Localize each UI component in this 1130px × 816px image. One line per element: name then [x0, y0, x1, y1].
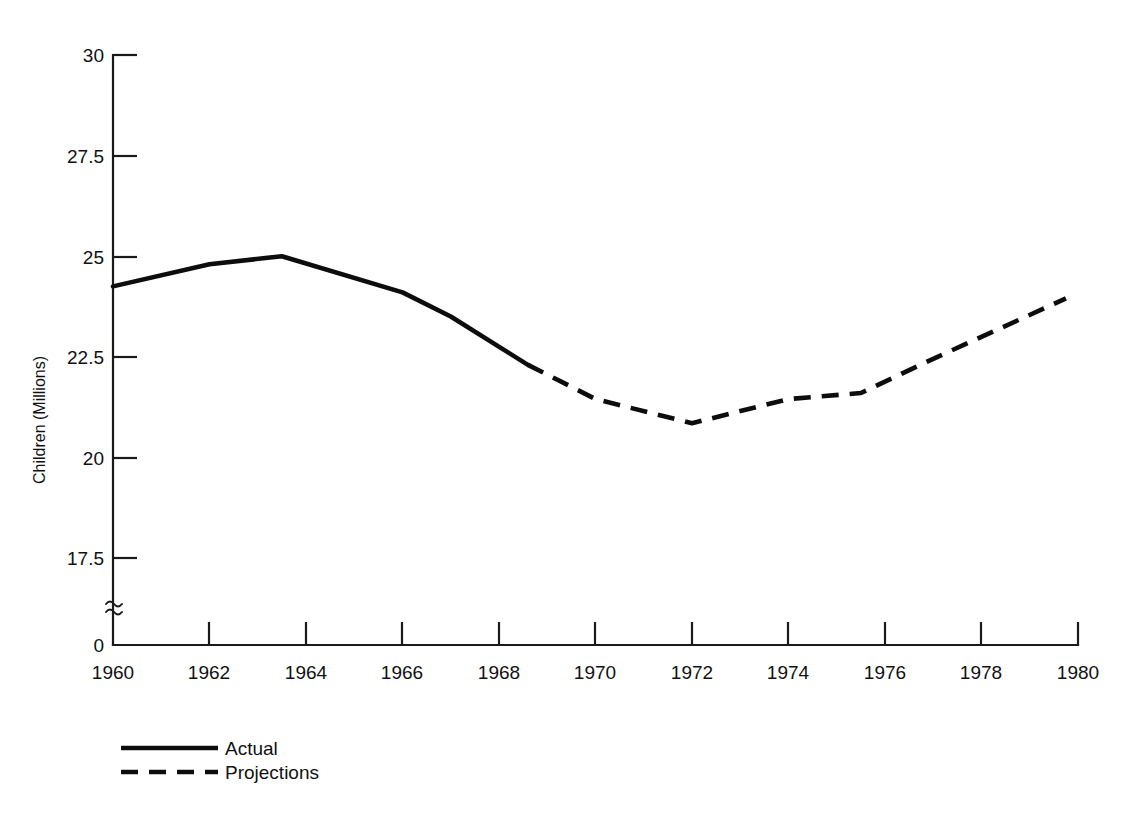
- series-line-actual: [113, 256, 528, 365]
- y-tick-label-30: 30: [83, 45, 104, 66]
- line-chart: 30 27.5 25 22.5 20 17.5 0 Children (Mill…: [0, 0, 1130, 816]
- x-tick-label-1962: 1962: [188, 662, 230, 683]
- y-tick-label-27-5: 27.5: [67, 146, 104, 167]
- y-tick-label-17-5: 17.5: [67, 548, 104, 569]
- x-tick-label-1966: 1966: [381, 662, 423, 683]
- x-tick-label-1976: 1976: [864, 662, 906, 683]
- y-tick-labels: 30 27.5 25 22.5 20 17.5 0: [67, 45, 104, 656]
- y-axis-title: Children (Millions): [31, 356, 48, 484]
- legend-label-projections: Projections: [225, 762, 319, 783]
- chart-legend: Actual Projections: [121, 738, 319, 783]
- y-tick-label-20: 20: [83, 448, 104, 469]
- x-tick-labels: 1960 1962 1964 1966 1968 1970 1972 1974 …: [92, 662, 1099, 683]
- legend-label-actual: Actual: [225, 738, 278, 759]
- y-tick-label-25: 25: [83, 247, 104, 268]
- y-tick-label-22-5: 22.5: [67, 347, 104, 368]
- x-tick-label-1980: 1980: [1057, 662, 1099, 683]
- x-tick-label-1968: 1968: [478, 662, 520, 683]
- axes-group: [113, 55, 1078, 645]
- y-tick-marks: [113, 55, 137, 558]
- x-tick-label-1970: 1970: [574, 662, 616, 683]
- series-line-projections: [528, 298, 1066, 423]
- x-tick-marks: [209, 622, 981, 645]
- x-tick-label-1974: 1974: [767, 662, 810, 683]
- x-tick-label-1972: 1972: [671, 662, 713, 683]
- y-tick-label-0: 0: [93, 635, 104, 656]
- chart-canvas: 30 27.5 25 22.5 20 17.5 0 Children (Mill…: [0, 0, 1130, 816]
- x-tick-label-1960: 1960: [92, 662, 134, 683]
- x-tick-label-1978: 1978: [960, 662, 1002, 683]
- x-tick-label-1964: 1964: [285, 662, 328, 683]
